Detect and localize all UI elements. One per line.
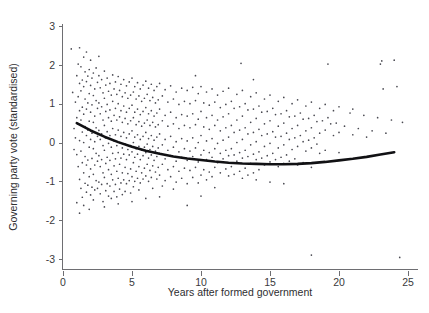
scatter-plot-svg: 3210-1-2-3 0510152025 Years after formed… <box>0 0 429 313</box>
y-tick-label: 3 <box>49 20 55 32</box>
x-tick-label: 5 <box>129 276 135 288</box>
y-tick-label: -3 <box>46 253 55 265</box>
x-tick-label: 25 <box>402 276 414 288</box>
y-tick-label: -1 <box>46 175 55 187</box>
y-tick-label: -2 <box>46 214 55 226</box>
chart-figure: 3210-1-2-3 0510152025 Years after formed… <box>0 0 429 313</box>
y-tick-label: 0 <box>49 136 55 148</box>
y-tick-label: 1 <box>49 97 55 109</box>
y-axis-title: Governing party vote (standardised) <box>7 63 19 231</box>
x-tick-label: 20 <box>333 276 345 288</box>
y-tick-label: 2 <box>49 59 55 71</box>
x-tick-label: 0 <box>60 276 66 288</box>
x-axis-title: Years after formed government <box>168 286 312 298</box>
